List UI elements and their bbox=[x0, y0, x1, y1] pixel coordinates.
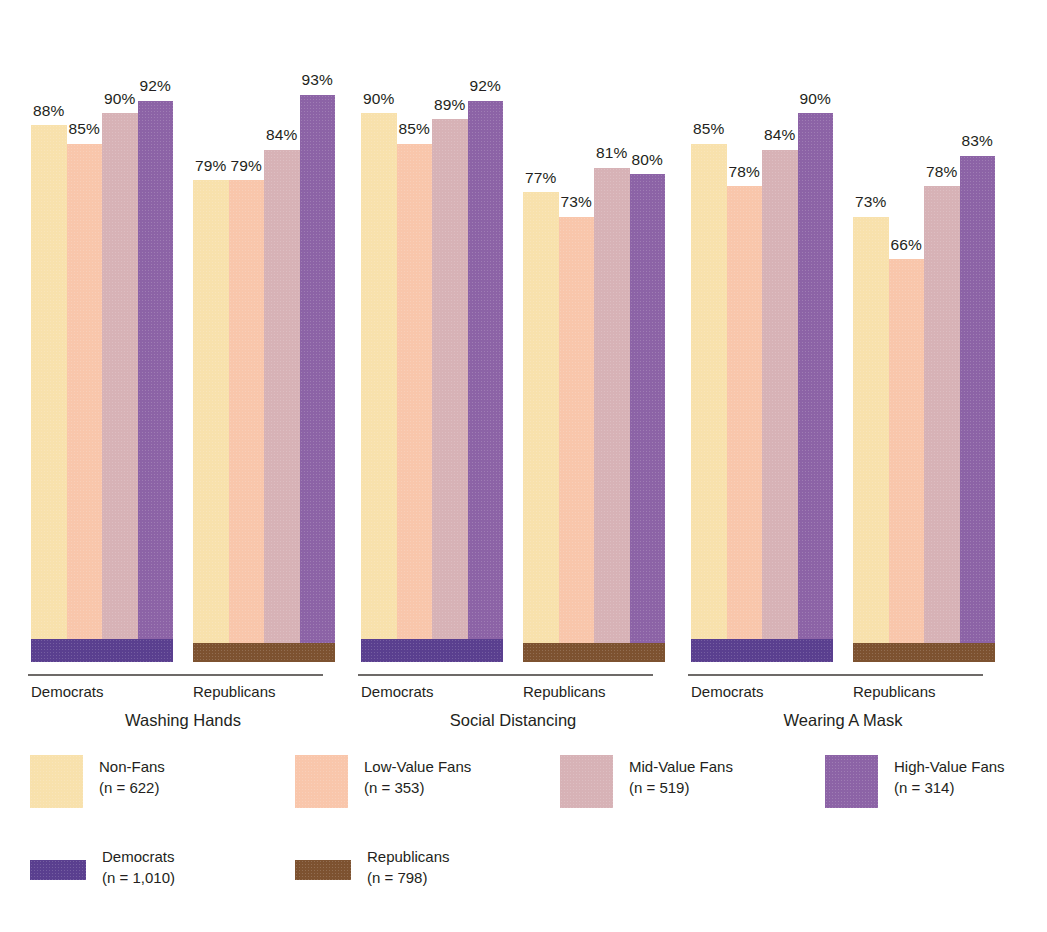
bar-low-value-fans[interactable] bbox=[229, 180, 265, 662]
bar-low-value-fans[interactable] bbox=[67, 144, 103, 663]
bar-low-value-fans[interactable] bbox=[889, 259, 925, 662]
legend-swatch-democrats bbox=[30, 860, 86, 880]
bar-slot: 92% bbox=[468, 42, 504, 662]
bar-high-value-fans[interactable] bbox=[468, 101, 504, 662]
bar-high-value-fans[interactable] bbox=[138, 101, 174, 662]
bar-high-value-fans[interactable] bbox=[960, 156, 996, 662]
party-cluster-republicans: 79%79%84%93% bbox=[193, 42, 335, 662]
legend-sample-size: (n = 622) bbox=[99, 777, 165, 798]
bar-slot: 77% bbox=[523, 42, 559, 662]
bar-slot: 89% bbox=[432, 42, 468, 662]
legend-label-text: Low-Value Fans bbox=[364, 758, 471, 775]
bar-slot: 85% bbox=[691, 42, 727, 662]
bar-slot: 88% bbox=[31, 42, 67, 662]
bar-value-label: 85% bbox=[69, 121, 100, 137]
bar-value-label: 79% bbox=[231, 158, 262, 174]
bar-value-label: 73% bbox=[855, 194, 886, 210]
legend-label-low-value-fans: Low-Value Fans(n = 353) bbox=[364, 755, 471, 799]
topic-group-washing-hands: 88%85%90%92%Democrats79%79%84%93%Republi… bbox=[18, 0, 348, 676]
x-axis-line bbox=[28, 674, 323, 676]
bar-slot: 90% bbox=[798, 42, 834, 662]
legend-label-democrats: Democrats(n = 1,010) bbox=[102, 845, 175, 889]
bar-series: 90%85%89%92% bbox=[361, 42, 503, 662]
bar-value-label: 92% bbox=[470, 78, 501, 94]
x-axis-line bbox=[688, 674, 983, 676]
bar-mid-value-fans[interactable] bbox=[924, 186, 960, 662]
bar-slot: 84% bbox=[264, 42, 300, 662]
bar-mid-value-fans[interactable] bbox=[594, 168, 630, 662]
party-base-band-republicans bbox=[853, 643, 995, 662]
bar-slot: 85% bbox=[397, 42, 433, 662]
party-cluster-democrats: 90%85%89%92% bbox=[361, 42, 503, 662]
topic-group-social-distancing: 90%85%89%92%Democrats77%73%81%80%Republi… bbox=[348, 0, 678, 676]
bar-low-value-fans[interactable] bbox=[559, 217, 595, 662]
bar-value-label: 85% bbox=[399, 121, 430, 137]
bar-low-value-fans[interactable] bbox=[727, 186, 763, 662]
legend-item-republicans[interactable]: Republicans(n = 798) bbox=[295, 845, 450, 889]
bar-mid-value-fans[interactable] bbox=[102, 113, 138, 662]
party-axis-label-republicans: Republicans bbox=[523, 683, 606, 700]
bar-value-label: 90% bbox=[800, 91, 831, 107]
bar-non-fans[interactable] bbox=[31, 125, 67, 662]
legend-label-text: Democrats bbox=[102, 848, 175, 865]
bar-high-value-fans[interactable] bbox=[630, 174, 666, 662]
bar-non-fans[interactable] bbox=[523, 192, 559, 662]
legend-swatch-mid-value-fans bbox=[560, 755, 613, 808]
bar-slot: 92% bbox=[138, 42, 174, 662]
bar-value-label: 79% bbox=[195, 158, 226, 174]
party-axis-label-republicans: Republicans bbox=[853, 683, 936, 700]
bar-high-value-fans[interactable] bbox=[300, 95, 336, 662]
bar-value-label: 78% bbox=[729, 164, 760, 180]
legend-sample-size: (n = 519) bbox=[629, 777, 733, 798]
party-base-band-republicans bbox=[523, 643, 665, 662]
party-base-band-democrats bbox=[31, 639, 173, 662]
bar-slot: 83% bbox=[960, 42, 996, 662]
legend-item-mid-value-fans[interactable]: Mid-Value Fans(n = 519) bbox=[560, 755, 733, 808]
bar-slot: 93% bbox=[300, 42, 336, 662]
bar-value-label: 83% bbox=[962, 133, 993, 149]
party-axis-label-republicans: Republicans bbox=[193, 683, 276, 700]
bar-value-label: 80% bbox=[632, 152, 663, 168]
legend-item-non-fans[interactable]: Non-Fans(n = 622) bbox=[30, 755, 165, 808]
party-base-band-democrats bbox=[691, 639, 833, 662]
bar-value-label: 78% bbox=[926, 164, 957, 180]
party-axis-label-democrats: Democrats bbox=[691, 683, 764, 700]
bar-non-fans[interactable] bbox=[193, 180, 229, 662]
legend-swatch-low-value-fans bbox=[295, 755, 348, 808]
party-axis-label-democrats: Democrats bbox=[31, 683, 104, 700]
bar-mid-value-fans[interactable] bbox=[264, 150, 300, 662]
bar-value-label: 84% bbox=[266, 127, 297, 143]
legend-item-high-value-fans[interactable]: High-Value Fans(n = 314) bbox=[825, 755, 1005, 808]
legend-swatch-high-value-fans bbox=[825, 755, 878, 808]
bar-series: 79%79%84%93% bbox=[193, 42, 335, 662]
legend-item-low-value-fans[interactable]: Low-Value Fans(n = 353) bbox=[295, 755, 471, 808]
legend-label-text: Non-Fans bbox=[99, 758, 165, 775]
legend-swatch-republicans bbox=[295, 860, 351, 880]
bar-value-label: 73% bbox=[561, 194, 592, 210]
bar-slot: 78% bbox=[727, 42, 763, 662]
bar-slot: 73% bbox=[559, 42, 595, 662]
legend-swatch-non-fans bbox=[30, 755, 83, 808]
bar-value-label: 66% bbox=[891, 237, 922, 253]
legend-sample-size: (n = 314) bbox=[894, 777, 1005, 798]
bar-non-fans[interactable] bbox=[853, 217, 889, 662]
legend-item-democrats[interactable]: Democrats(n = 1,010) bbox=[30, 845, 175, 889]
bar-non-fans[interactable] bbox=[361, 113, 397, 662]
bar-mid-value-fans[interactable] bbox=[432, 119, 468, 662]
bar-non-fans[interactable] bbox=[691, 144, 727, 663]
bar-slot: 80% bbox=[630, 42, 666, 662]
plot-area: 88%85%90%92%Democrats79%79%84%93%Republi… bbox=[0, 0, 1047, 676]
party-cluster-democrats: 88%85%90%92% bbox=[31, 42, 173, 662]
bar-value-label: 85% bbox=[693, 121, 724, 137]
bar-slot: 73% bbox=[853, 42, 889, 662]
legend-sample-size: (n = 798) bbox=[367, 867, 450, 888]
legend-label-text: Mid-Value Fans bbox=[629, 758, 733, 775]
bar-low-value-fans[interactable] bbox=[397, 144, 433, 663]
bar-slot: 66% bbox=[889, 42, 925, 662]
legend-label-text: High-Value Fans bbox=[894, 758, 1005, 775]
topic-label: Wearing A Mask bbox=[678, 711, 1008, 730]
bar-value-label: 90% bbox=[363, 91, 394, 107]
bar-mid-value-fans[interactable] bbox=[762, 150, 798, 662]
bar-high-value-fans[interactable] bbox=[798, 113, 834, 662]
bar-chart: 88%85%90%92%Democrats79%79%84%93%Republi… bbox=[0, 0, 1047, 932]
